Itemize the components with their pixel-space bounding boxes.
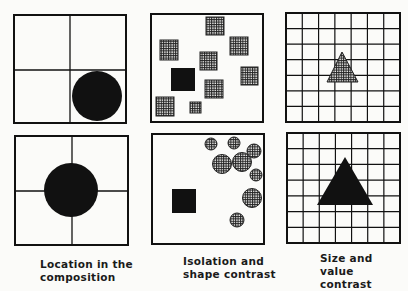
panel-location-bottom [15,136,128,245]
hatched-square [190,102,201,113]
hatched-square [206,17,224,35]
hatched-square [241,67,258,85]
hatched-circle [250,169,262,181]
hatched-circle [230,213,244,227]
caption-line: shape contrast [183,268,276,281]
solid-circle [72,71,122,121]
caption-location: Location in the composition [40,258,133,284]
panel-isolation-bottom [152,134,264,244]
hatched-circle [205,138,217,150]
caption-line: value contrast [320,265,408,291]
panel-isolation-top [151,14,263,122]
panel-location-top [14,15,126,123]
hatched-square [200,52,217,70]
caption-line: Isolation and [183,255,276,268]
caption-size: Size and value contrast [320,252,408,291]
caption-line: composition [40,271,133,284]
panel-size-top [286,13,400,122]
hatched-square [156,97,174,116]
solid-square [172,189,196,213]
hatched-triangle [327,52,358,82]
solid-square [171,68,195,91]
hatched-circle [228,137,240,149]
caption-line: Size and [320,252,408,265]
caption-line: Location in the [40,258,133,271]
hatched-square [160,40,178,60]
caption-isolation: Isolation and shape contrast [183,255,276,281]
hatched-circle [233,153,252,172]
panel-size-bottom [287,133,400,243]
hatched-circle [213,155,232,174]
hatched-square [230,37,248,55]
hatched-square [205,80,223,98]
hatched-circle [243,189,262,208]
solid-circle [44,163,98,217]
